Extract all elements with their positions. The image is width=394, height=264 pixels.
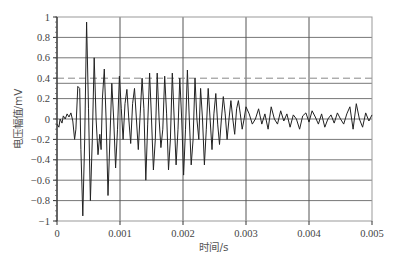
y-tick-label: −0.6	[31, 175, 50, 186]
x-axis-label: 时间/s	[199, 241, 228, 253]
y-axis-ticks: 10.80.60.40.20−0.2−0.4−0.6−0.8−1	[31, 12, 57, 227]
y-tick-label: 0	[45, 114, 50, 125]
x-tick-label: 0.001	[108, 228, 132, 239]
y-tick-label: −0.8	[31, 195, 50, 206]
x-axis-ticks: 00.0010.0020.0030.0040.005	[54, 221, 383, 239]
x-tick-label: 0	[54, 228, 59, 239]
x-tick-label: 0.002	[171, 228, 195, 239]
chart: 10.80.60.40.20−0.2−0.4−0.6−0.8−1 00.0010…	[0, 0, 394, 264]
y-tick-label: 0.8	[37, 32, 50, 43]
x-tick-label: 0.003	[234, 228, 258, 239]
y-tick-label: −0.2	[31, 134, 50, 145]
y-tick-label: 1	[45, 12, 50, 23]
y-tick-label: −0.4	[31, 154, 51, 165]
grid-lines	[57, 17, 372, 221]
y-tick-label: 0.4	[37, 73, 51, 84]
x-tick-label: 0.005	[360, 228, 384, 239]
y-tick-label: 0.2	[37, 93, 50, 104]
y-axis-label: 电压幅值/mV	[12, 88, 24, 150]
x-tick-label: 0.004	[297, 228, 321, 239]
y-tick-label: −1	[39, 216, 50, 227]
y-tick-label: 0.6	[37, 52, 50, 63]
